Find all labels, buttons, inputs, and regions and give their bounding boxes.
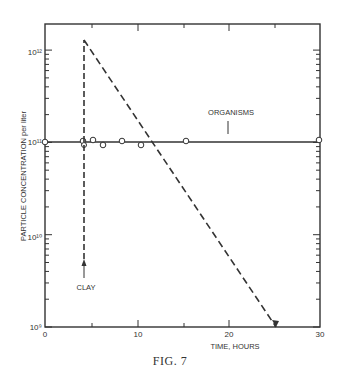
y-tick-1e11: 10¹¹ bbox=[28, 138, 43, 147]
y-tick-1e12: 10¹² bbox=[28, 48, 43, 57]
y-axis-label: PARTICLE CONCENTRATION per liter bbox=[19, 110, 28, 241]
x-axis-label: TIME, HOURS bbox=[210, 342, 259, 351]
figure-caption: FIG. 7 bbox=[153, 354, 187, 368]
clay-arrow-up-icon bbox=[82, 259, 87, 266]
x-tick-0: 0 bbox=[43, 330, 48, 339]
clay-decay-line bbox=[84, 40, 276, 327]
plot-frame bbox=[45, 24, 320, 327]
y-tick-1e10: 10¹⁰ bbox=[27, 233, 42, 242]
organisms-annotation: ORGANISMS bbox=[208, 108, 254, 117]
x-tick-30: 30 bbox=[316, 330, 325, 339]
x-tick-20: 20 bbox=[225, 330, 234, 339]
chart-figure: 0 10 20 30 10⁹ 10¹⁰ 10¹¹ 10¹² TIME, HOUR… bbox=[0, 0, 340, 384]
clay-end-arrow bbox=[272, 320, 279, 327]
x-axis-ticks bbox=[92, 24, 275, 327]
x-tick-10: 10 bbox=[134, 330, 143, 339]
clay-annotation: CLAY bbox=[76, 283, 95, 292]
y-tick-1e9: 10⁹ bbox=[30, 323, 42, 332]
